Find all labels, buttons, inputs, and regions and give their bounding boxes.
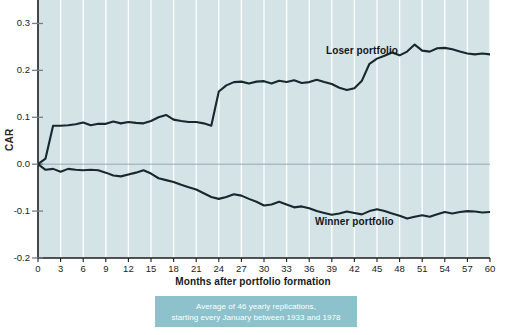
x-tick-label: 60 bbox=[481, 264, 499, 274]
x-tick-label: 0 bbox=[29, 264, 47, 274]
y-tick-label: 0.2 bbox=[2, 65, 30, 75]
x-tick-label: 48 bbox=[391, 264, 409, 274]
x-tick-label: 54 bbox=[436, 264, 454, 274]
chart-figure: CAR 0.30.20.10.0-0.1-0.2 036912151821242… bbox=[0, 0, 506, 335]
x-tick-label: 18 bbox=[165, 264, 183, 274]
x-tick-label: 42 bbox=[345, 264, 363, 274]
caption-line-1: Average of 46 yearly replications, bbox=[196, 301, 316, 312]
x-tick-label: 33 bbox=[278, 264, 296, 274]
x-axis-label: Months after portfolio formation bbox=[0, 276, 506, 287]
x-tick-label: 9 bbox=[97, 264, 115, 274]
caption-line-2: starting every January between 1933 and … bbox=[172, 312, 341, 323]
x-tick-label: 30 bbox=[255, 264, 273, 274]
x-tick-label: 51 bbox=[413, 264, 431, 274]
series-label-winner: Winner portfolio bbox=[315, 216, 394, 227]
x-tick-label: 24 bbox=[210, 264, 228, 274]
series-label-loser: Loser portfolio bbox=[326, 45, 398, 56]
x-tick-label: 27 bbox=[232, 264, 250, 274]
y-tick-label: -0.2 bbox=[2, 253, 30, 263]
caption-box: Average of 46 yearly replications, start… bbox=[155, 296, 357, 327]
x-tick-label: 3 bbox=[52, 264, 70, 274]
x-tick-label: 6 bbox=[74, 264, 92, 274]
x-tick-label: 57 bbox=[458, 264, 476, 274]
y-axis-label: CAR bbox=[2, 117, 18, 163]
x-tick-label: 21 bbox=[187, 264, 205, 274]
x-tick-label: 12 bbox=[119, 264, 137, 274]
y-tick-label: 0.1 bbox=[2, 112, 30, 122]
x-tick-label: 15 bbox=[142, 264, 160, 274]
x-tick-label: 39 bbox=[323, 264, 341, 274]
y-tick-label: -0.1 bbox=[2, 206, 30, 216]
x-tick-label: 36 bbox=[300, 264, 318, 274]
y-tick-label: 0.0 bbox=[2, 159, 30, 169]
x-axis-tick-marks bbox=[38, 258, 490, 262]
x-tick-label: 45 bbox=[368, 264, 386, 274]
y-tick-label: 0.3 bbox=[2, 18, 30, 28]
